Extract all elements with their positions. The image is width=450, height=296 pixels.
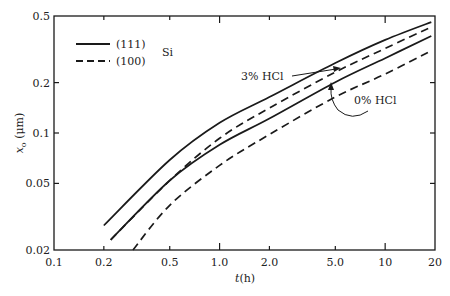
annotation-0pct-hcl: 0% HCl [328, 82, 397, 116]
y-tick-label: 0.1 [33, 127, 51, 140]
y-tick-label: 0.2 [33, 77, 51, 90]
y-axis-title: xo (μm) [13, 113, 28, 154]
legend: (111) (100) Si [76, 38, 174, 68]
x-tick-label: 1.0 [211, 256, 229, 269]
x-tick-label: 2.0 [261, 256, 279, 269]
legend-label-111: (111) [116, 38, 146, 51]
y-tick-label: 0.05 [26, 177, 51, 190]
curve-3 [111, 36, 432, 240]
curve-1 [104, 22, 432, 225]
x-axis-title: t(h) [235, 272, 255, 285]
x-tick-label: 10 [378, 256, 392, 269]
x-tick-label: 0.2 [95, 256, 113, 269]
annotation-0pct-label: 0% HCl [354, 94, 397, 107]
x-tick-label: 5.0 [327, 256, 345, 269]
x-tick-label: 0.5 [161, 256, 179, 269]
x-tick-label: 0.1 [45, 256, 63, 269]
y-tick-label: 0.5 [33, 10, 51, 23]
legend-group-label: Si [162, 46, 174, 59]
oxide-thickness-chart: 0.10.20.51.02.05.01020 0.020.050.10.20.5… [0, 0, 450, 296]
annotation-3pct-label: 3% HCl [241, 70, 284, 83]
x-axis-ticks: 0.10.20.51.02.05.01020 [45, 16, 442, 269]
legend-label-100: (100) [116, 55, 146, 68]
data-curves [104, 22, 432, 250]
y-axis-ticks: 0.020.050.10.20.5 [26, 10, 436, 257]
x-tick-label: 20 [428, 256, 442, 269]
y-tick-label: 0.02 [26, 244, 51, 257]
